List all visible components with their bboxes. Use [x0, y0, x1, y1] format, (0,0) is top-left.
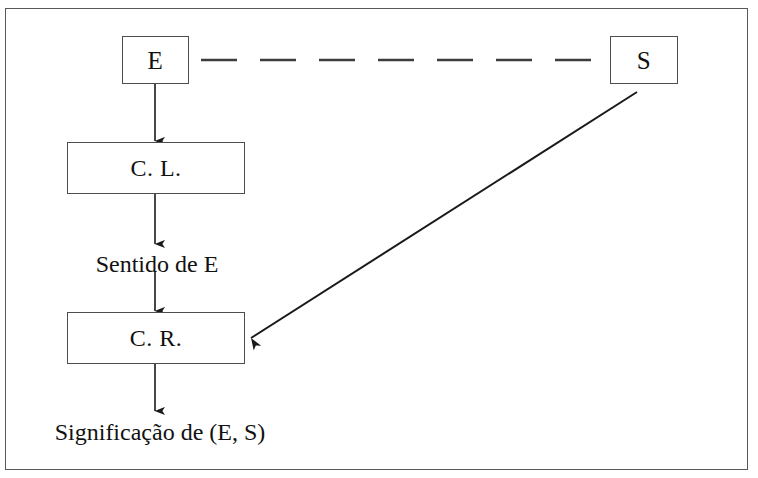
- node-box-s: S: [610, 36, 678, 84]
- node-box-e: E: [122, 36, 189, 84]
- connector-s-to-cr-diagonal: [251, 92, 637, 338]
- node-label-s: S: [637, 48, 651, 73]
- node-label-cl: C. L.: [130, 156, 181, 180]
- label-sentido-de-e: Sentido de E: [96, 252, 219, 276]
- node-box-cl: C. L.: [67, 142, 245, 194]
- node-label-cr: C. R.: [130, 326, 183, 350]
- node-box-cr: C. R.: [67, 312, 245, 364]
- label-significacao-de-e-s: Significação de (E, S): [55, 420, 266, 444]
- figure-root: E S C. L. C. R. Sentido de E Significaçã…: [0, 0, 758, 478]
- node-label-e: E: [148, 48, 164, 73]
